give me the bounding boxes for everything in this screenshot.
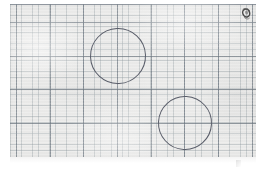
graph-paper-sheet (10, 4, 256, 157)
scan-canvas (0, 0, 267, 171)
bottom-right-speck (236, 160, 241, 167)
major-gridlines (10, 4, 256, 157)
sheet-bottom-shadow (10, 157, 256, 163)
